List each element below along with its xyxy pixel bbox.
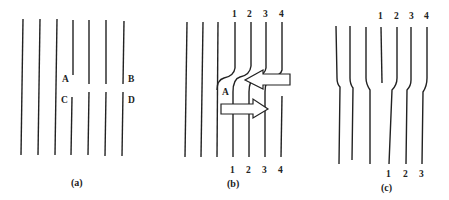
lattice-line: [21, 19, 23, 155]
lattice-line-4-to-3: [422, 27, 427, 164]
panel-c: 1 2 3 4 1 2 3 (c): [336, 11, 429, 194]
lattice-line-lower: [88, 92, 89, 155]
half-plane-1: [217, 22, 235, 90]
panel-a: A C B D (a): [21, 19, 135, 189]
lattice-line: [201, 22, 203, 157]
lattice-line: [366, 27, 370, 164]
lattice-line-3-to-2: [406, 27, 411, 164]
bottom-number-1: 1: [386, 169, 391, 179]
caption-b: (b): [227, 178, 239, 190]
label-a: A: [222, 87, 229, 97]
lattice-line-2-to-1: [389, 27, 397, 164]
lattice-line: [55, 19, 57, 155]
bottom-number-2: 2: [403, 169, 408, 179]
top-number-2: 2: [247, 9, 252, 19]
bottom-number-2: 2: [246, 165, 251, 175]
lattice-line-lower: [71, 97, 72, 155]
lattice-line: [185, 22, 187, 157]
caption-a: (a): [71, 177, 83, 189]
label-a: A: [62, 74, 69, 84]
top-number-4: 4: [279, 9, 284, 19]
lattice-line: [336, 26, 340, 164]
label-c: C: [61, 95, 68, 105]
top-number-3: 3: [263, 9, 268, 19]
top-number-2: 2: [394, 11, 399, 21]
lattice-line: [350, 26, 353, 160]
lattice-line-lower: [105, 92, 106, 156]
shear-arrow-right: [221, 99, 268, 118]
label-b: B: [128, 74, 135, 84]
bottom-number-3: 3: [419, 169, 424, 179]
panel-b: A 1 2 3 4 1 2 3 4 (b): [185, 9, 290, 190]
caption-c: (c): [381, 182, 392, 194]
top-number-3: 3: [409, 11, 414, 21]
edge-dislocation-diagram: A C B D (a) A 1 2 3 4 1 2 3 4 (b): [0, 0, 449, 200]
top-number-1: 1: [378, 11, 383, 21]
lattice-line: [38, 19, 40, 155]
lattice-line-lower: [122, 92, 123, 156]
top-number-1: 1: [232, 9, 237, 19]
shifted-line-4-to-3: [265, 22, 282, 157]
bottom-number-4: 4: [278, 165, 283, 175]
label-d: D: [128, 95, 135, 105]
bottom-number-1: 1: [230, 165, 235, 175]
lattice-line-4-lower: [281, 96, 282, 157]
half-plane-1: [381, 27, 382, 83]
shear-arrow-left: [245, 70, 290, 89]
lattice-line-upper: [123, 21, 124, 84]
top-number-4: 4: [424, 11, 429, 21]
bottom-number-3: 3: [262, 165, 267, 175]
